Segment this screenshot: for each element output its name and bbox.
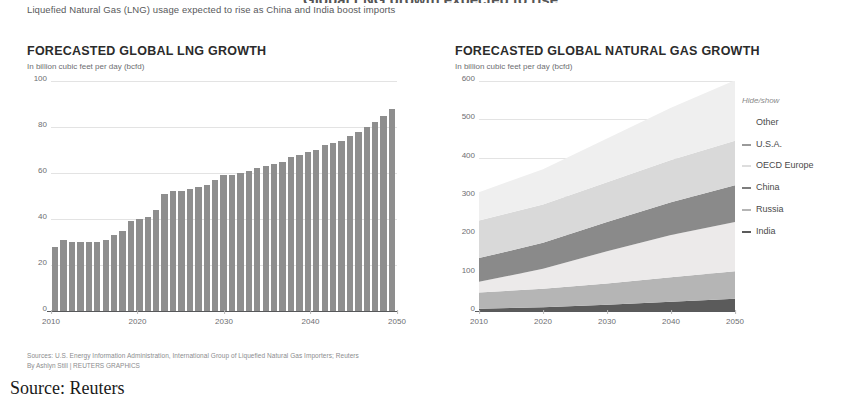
bar[interactable] [347, 136, 353, 311]
bar[interactable] [355, 132, 361, 311]
legend-item-india[interactable]: India [742, 227, 854, 237]
bar[interactable] [313, 150, 319, 311]
x-axis-tick-label: 2040 [662, 317, 680, 326]
bar[interactable] [204, 185, 210, 312]
bar[interactable] [187, 189, 193, 311]
legend-swatch-icon [742, 122, 751, 124]
bar[interactable] [111, 235, 117, 311]
right-chart-subtitle: In billion cubic feet per day (bcfd) [455, 62, 855, 71]
legend-item-oecd-europe[interactable]: OECD Europe [742, 161, 854, 171]
x-axis-line [47, 311, 397, 312]
x-axis-tick-mark [397, 310, 398, 314]
legend-item-other[interactable]: Other [742, 118, 854, 128]
legend-item-label: Russia [756, 205, 784, 215]
x-axis-tick-label: 2030 [598, 317, 616, 326]
bar[interactable] [128, 221, 134, 311]
bar[interactable] [330, 143, 336, 311]
bar[interactable] [86, 242, 92, 311]
x-axis-tick-label: 2020 [534, 317, 552, 326]
bar[interactable] [178, 191, 184, 311]
bar[interactable] [288, 157, 294, 311]
y-axis-tick-label: 100 [455, 266, 475, 275]
bar[interactable] [364, 127, 370, 311]
bar[interactable] [305, 152, 311, 311]
x-axis-tick-mark [137, 310, 138, 314]
x-axis-tick-label: 2010 [42, 317, 60, 326]
x-axis-tick-label: 2030 [215, 317, 233, 326]
bar[interactable] [263, 166, 269, 311]
y-axis-tick-label: 600 [455, 74, 475, 83]
x-axis-tick-mark [224, 310, 225, 314]
x-axis-tick-mark [671, 310, 672, 314]
x-axis-tick-label: 2020 [129, 317, 147, 326]
bar[interactable] [246, 171, 252, 311]
x-axis-tick-mark [51, 310, 52, 314]
legend-item-label: OECD Europe [756, 161, 814, 171]
legend-item-russia[interactable]: Russia [742, 205, 854, 215]
x-axis-tick-label: 2040 [302, 317, 320, 326]
bar[interactable] [77, 242, 83, 311]
source-caption: Source: Reuters [10, 378, 124, 399]
y-axis-tick-label: 0 [27, 304, 47, 313]
bar[interactable] [338, 141, 344, 311]
left-chart-panel: FORECASTED GLOBAL LNG GROWTH In billion … [27, 44, 427, 311]
footer: Sources: U.S. Energy Information Adminis… [27, 352, 359, 369]
bar[interactable] [212, 180, 218, 311]
bar[interactable] [153, 210, 159, 311]
bar[interactable] [136, 219, 142, 311]
bar[interactable] [94, 242, 100, 311]
y-axis-tick-label: 60 [27, 166, 47, 175]
right-chart-title: FORECASTED GLOBAL NATURAL GAS GROWTH [455, 44, 855, 58]
clipped-headline: Global LNG growth expected to rise [0, 0, 861, 3]
legend-item-label: India [756, 227, 776, 237]
y-axis-tick-label: 200 [455, 227, 475, 236]
x-axis-tick-mark [479, 310, 480, 314]
chart-legend: Hide/show OtherU.S.A.OECD EuropeChinaRus… [742, 96, 854, 248]
legend-swatch-icon [742, 165, 751, 167]
bar[interactable] [237, 173, 243, 311]
legend-swatch-icon [742, 187, 751, 189]
byline: By Ashlyn Still | REUTERS GRAPHICS [27, 362, 359, 369]
y-axis-tick-label: 400 [455, 151, 475, 160]
bar[interactable] [220, 175, 226, 311]
legend-item-label: Other [756, 118, 779, 128]
bar[interactable] [170, 191, 176, 311]
x-axis-tick-mark [735, 310, 736, 314]
y-axis-tick-label: 100 [27, 74, 47, 83]
deck-text: Liquefied Natural Gas (LNG) usage expect… [27, 4, 395, 15]
bar-series [52, 81, 397, 311]
bar[interactable] [195, 187, 201, 311]
bar[interactable] [60, 240, 66, 311]
x-axis: 20102020203020402050 [51, 317, 397, 331]
bar[interactable] [279, 162, 285, 312]
hide-show-label[interactable]: Hide/show [742, 96, 854, 105]
x-axis-tick-mark [607, 310, 608, 314]
bar[interactable] [322, 145, 328, 311]
bar[interactable] [145, 217, 151, 311]
legend-swatch-icon [742, 144, 751, 146]
lng-growth-bar-chart: 02040608010020102020203020402050 [27, 81, 397, 311]
bar[interactable] [389, 109, 395, 311]
left-chart-subtitle: In billion cubic feet per day (bcfd) [27, 62, 427, 71]
bar[interactable] [69, 242, 75, 311]
legend-item-china[interactable]: China [742, 183, 854, 193]
bar[interactable] [119, 231, 125, 312]
bar[interactable] [161, 194, 167, 311]
legend-item-u-s-a[interactable]: U.S.A. [742, 140, 854, 150]
bar[interactable] [52, 247, 58, 311]
natural-gas-growth-area-chart: 010020030040050060020102020203020402050 [455, 81, 735, 311]
bar[interactable] [271, 164, 277, 311]
bar[interactable] [380, 116, 386, 312]
y-axis-tick-label: 40 [27, 212, 47, 221]
left-chart-title: FORECASTED GLOBAL LNG GROWTH [27, 44, 427, 58]
x-axis-tick-label: 2050 [726, 317, 744, 326]
bar[interactable] [229, 175, 235, 311]
y-axis-tick-label: 500 [455, 112, 475, 121]
bar[interactable] [103, 240, 109, 311]
bar[interactable] [296, 155, 302, 311]
stacked-area-series [479, 81, 735, 311]
bar[interactable] [254, 168, 260, 311]
legend-swatch-icon [742, 209, 751, 211]
y-axis-tick-label: 20 [27, 258, 47, 267]
bar[interactable] [372, 122, 378, 311]
